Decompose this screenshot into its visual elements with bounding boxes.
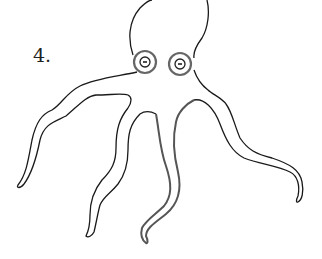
tentacle-right	[194, 70, 303, 202]
octopus-head	[130, 0, 209, 58]
right-eye	[169, 53, 191, 75]
left-eye	[134, 51, 156, 73]
tentacle-center	[141, 100, 194, 243]
tentacle-far-left	[17, 72, 137, 188]
octopus-drawing	[0, 0, 322, 259]
tentacle-mid-left	[86, 108, 156, 237]
